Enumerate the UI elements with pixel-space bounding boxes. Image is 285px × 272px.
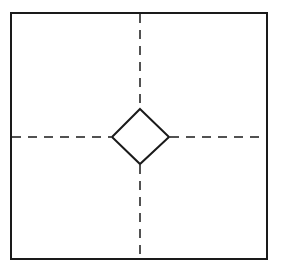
center-diamond (112, 109, 169, 164)
diagram-canvas (0, 0, 285, 272)
